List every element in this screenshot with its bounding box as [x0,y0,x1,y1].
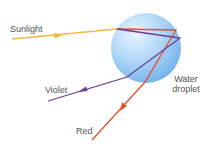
water-droplet-label: Water droplet [168,74,204,94]
sunlight-label: Sunlight [10,24,43,34]
rainbow-dispersion-diagram: Sunlight Violet Red Water droplet [0,0,205,147]
water-droplet-label-line2: droplet [168,84,204,94]
violet-arrow-icon [78,87,88,93]
violet-label: Violet [45,85,67,95]
water-droplet [111,13,181,83]
water-droplet-label-line1: Water [168,74,204,84]
red-label: Red [76,126,93,136]
sunlight-arrow-icon [54,33,62,39]
